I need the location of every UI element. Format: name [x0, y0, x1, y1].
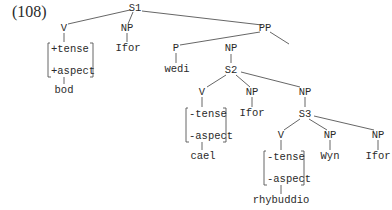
node-V-main: V	[61, 22, 68, 34]
node-S2: S2	[225, 64, 238, 76]
node-NP-pp-object: NP	[225, 42, 238, 54]
leaf-wedi: wedi	[164, 63, 189, 75]
leaf-Ifor-2: Ifor	[239, 107, 264, 119]
node-V-S3: V	[278, 129, 285, 141]
feature-minus-tense-S2: -tense	[189, 108, 227, 120]
node-P: P	[173, 42, 179, 54]
syntax-tree-diagram: (108)	[0, 0, 392, 210]
node-NP-S3-object: NP	[372, 129, 385, 141]
node-PP: PP	[259, 22, 272, 34]
node-S1: S1	[129, 2, 142, 14]
leaf-rhybuddio: rhybuddio	[253, 194, 310, 206]
feature-plus-aspect: +aspect	[51, 65, 95, 77]
leaf-Ifor-1: Ifor	[115, 42, 140, 54]
leaf-Wyn: Wyn	[321, 150, 340, 162]
node-NP-S3-subject: NP	[324, 129, 337, 141]
node-V-S2: V	[199, 86, 206, 98]
node-NP-subject: NP	[121, 22, 134, 34]
feature-minus-aspect-S2: -aspect	[189, 130, 233, 142]
leaf-Ifor-3: Ifor	[365, 150, 390, 162]
node-S3: S3	[299, 108, 312, 120]
tree-edges	[64, 10, 378, 194]
node-NP-S2-complement: NP	[299, 86, 312, 98]
leaf-bod: bod	[55, 84, 74, 96]
feature-minus-aspect-S3: -aspect	[267, 173, 311, 185]
example-number: (108)	[12, 3, 47, 21]
node-NP-S2-subject: NP	[246, 86, 259, 98]
feature-minus-tense-S3: -tense	[267, 151, 305, 163]
leaf-cael: cael	[190, 150, 215, 162]
feature-plus-tense: +tense	[51, 43, 89, 55]
